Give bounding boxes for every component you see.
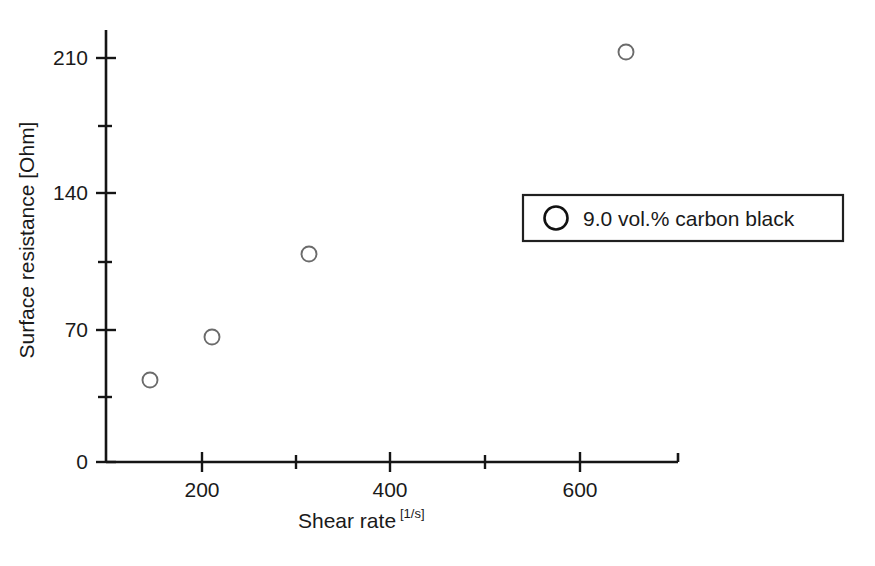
legend-entry-label: 9.0 vol.% carbon black	[583, 207, 795, 230]
x-axis-unit: [1/s]	[400, 506, 425, 521]
y-axis-title: Surface resistance [Ohm]	[15, 122, 38, 359]
x-tick-label-200: 200	[184, 478, 219, 501]
data-point[interactable]	[619, 45, 634, 60]
y-tick-label-70: 70	[65, 318, 88, 341]
data-point[interactable]	[143, 373, 158, 388]
chart-figure: 210 140 70 0 200 400 600 Surface resista…	[0, 0, 875, 566]
data-point[interactable]	[302, 247, 317, 262]
x-axis-title: Shear rate	[298, 509, 396, 532]
data-point[interactable]	[205, 330, 220, 345]
legend: 9.0 vol.% carbon black	[523, 195, 843, 241]
x-tick-label-600: 600	[562, 478, 597, 501]
scatter-plot: 210 140 70 0 200 400 600 Surface resista…	[0, 0, 875, 566]
x-tick-label-400: 400	[372, 478, 407, 501]
y-tick-label-140: 140	[53, 181, 88, 204]
y-tick-label-0: 0	[76, 450, 88, 473]
y-tick-label-210: 210	[53, 46, 88, 69]
